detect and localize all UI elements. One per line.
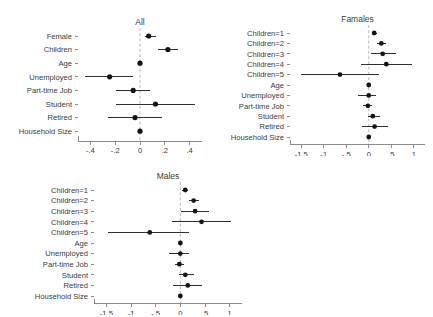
x-axis-tick-label: -.2 xyxy=(111,146,120,155)
row-label: Age xyxy=(270,81,284,90)
row-label: Children=1 xyxy=(247,29,284,38)
estimate-point-marker xyxy=(366,83,371,88)
row-label: Unemployed xyxy=(241,91,284,100)
row-label: Children=2 xyxy=(247,39,284,48)
estimate-point-marker xyxy=(372,31,377,36)
estimate-point-marker xyxy=(183,272,188,277)
panel-title: All xyxy=(135,17,145,27)
row-label: Retired xyxy=(48,113,72,122)
panel-females: FamalesChildren=1Children=2Children=3Chi… xyxy=(216,8,433,156)
x-axis-tick-label: -1.5 xyxy=(295,150,308,156)
row-label: Children=4 xyxy=(247,60,284,69)
row-label: Unemployed xyxy=(45,249,88,258)
panel-all: AllFemaleChildrenAgeUnemployedPart-time … xyxy=(0,8,216,156)
estimate-point-marker xyxy=(366,135,371,140)
x-axis-tick-label: 1 xyxy=(412,150,416,156)
row-label: Household Size xyxy=(35,292,88,301)
estimate-point-marker xyxy=(178,294,183,299)
plot-females: FamalesChildren=1Children=2Children=3Chi… xyxy=(216,8,433,156)
row-label: Student xyxy=(62,271,89,280)
x-axis-tick-label: 0 xyxy=(367,150,371,156)
row-label: Children=1 xyxy=(51,186,88,195)
estimate-point-marker xyxy=(384,62,389,67)
x-axis-tick-label: -1 xyxy=(128,309,135,315)
row-label: Age xyxy=(58,59,72,68)
row-label: Household Size xyxy=(19,127,72,136)
row-label: Unemployed xyxy=(29,73,72,82)
row-label: Children xyxy=(44,45,72,54)
estimate-point-marker xyxy=(199,219,204,224)
row-label: Children=3 xyxy=(247,50,284,59)
estimate-point-marker xyxy=(191,198,196,203)
x-axis-tick-label: -.5 xyxy=(342,150,351,156)
estimate-point-marker xyxy=(338,72,343,77)
estimate-point-marker xyxy=(365,103,370,108)
row-label: Children=5 xyxy=(247,70,284,79)
row-label: Part-time Job xyxy=(239,102,284,111)
estimate-point-marker xyxy=(147,230,152,235)
plot-all: AllFemaleChildrenAgeUnemployedPart-time … xyxy=(0,8,216,156)
estimate-point-marker xyxy=(193,209,198,214)
x-axis-tick-label: 0 xyxy=(138,146,142,155)
row-label: Retired xyxy=(260,122,284,131)
estimate-point-marker xyxy=(153,101,158,106)
row-label: Student xyxy=(46,100,73,109)
estimate-point-marker xyxy=(372,124,377,129)
estimate-point-marker xyxy=(137,129,142,134)
estimate-point-marker xyxy=(183,188,188,193)
estimate-point-marker xyxy=(380,51,385,56)
row-label: Student xyxy=(258,112,285,121)
x-axis-tick-label: -.5 xyxy=(151,309,160,315)
x-axis-tick-label: .5 xyxy=(388,150,394,156)
estimate-point-marker xyxy=(178,251,183,256)
x-axis-tick-label: .4 xyxy=(186,146,192,155)
panel-males: MalesChildren=1Children=2Children=3Child… xyxy=(14,163,250,315)
x-axis-tick-label: .5 xyxy=(202,309,208,315)
row-label: Household Size xyxy=(231,133,284,142)
row-label: Female xyxy=(47,32,72,41)
plot-males: MalesChildren=1Children=2Children=3Child… xyxy=(14,163,250,315)
x-axis-tick-label: -1.5 xyxy=(100,309,113,315)
estimate-point-marker xyxy=(379,41,384,46)
estimate-point-marker xyxy=(370,114,375,119)
estimate-point-marker xyxy=(107,74,112,79)
x-axis-tick-label: 0 xyxy=(178,309,182,315)
panel-title: Males xyxy=(157,171,180,181)
estimate-point-marker xyxy=(177,262,182,267)
x-axis-tick-label: -.4 xyxy=(86,146,95,155)
estimate-point-marker xyxy=(137,61,142,66)
x-axis-tick-label: 1 xyxy=(228,309,232,315)
panel-title: Famales xyxy=(341,14,374,24)
row-label: Retired xyxy=(64,281,88,290)
estimate-point-marker xyxy=(146,33,151,38)
estimate-point-marker xyxy=(366,93,371,98)
estimate-point-marker xyxy=(165,47,170,52)
estimate-point-marker xyxy=(132,115,137,120)
row-label: Part-time Job xyxy=(27,86,72,95)
row-label: Part-time Job xyxy=(43,260,88,269)
row-label: Age xyxy=(74,239,88,248)
row-label: Children=5 xyxy=(51,228,88,237)
row-label: Children=3 xyxy=(51,207,88,216)
estimate-point-marker xyxy=(185,283,190,288)
forest-plot-figure: AllFemaleChildrenAgeUnemployedPart-time … xyxy=(0,0,433,317)
x-axis-tick-label: -1 xyxy=(320,150,327,156)
estimate-point-marker xyxy=(131,88,136,93)
estimate-point-marker xyxy=(178,241,183,246)
row-label: Children=2 xyxy=(51,196,88,205)
row-label: Children=4 xyxy=(51,218,88,227)
x-axis-tick-label: .2 xyxy=(162,146,168,155)
